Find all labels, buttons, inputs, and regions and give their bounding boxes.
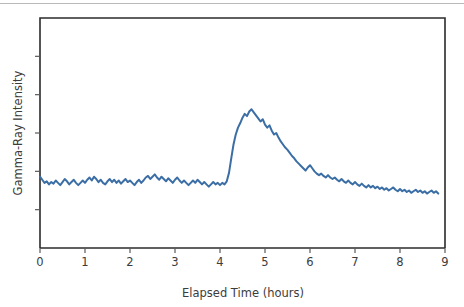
chart-canvas: 0123456789 Elapsed Time (hours) Gamma-Ra… [0,0,464,307]
x-tick-label: 0 [36,255,43,269]
plot-frame [40,18,445,248]
x-tick-label: 9 [441,255,448,269]
x-tick-label: 5 [261,255,268,269]
x-tick-label: 7 [351,255,358,269]
x-axis-ticks [40,248,445,253]
x-tick-label: 2 [126,255,133,269]
x-tick-label: 8 [396,255,403,269]
x-tick-label: 3 [171,255,178,269]
y-axis-title: Gamma-Ray Intensity [11,70,25,195]
x-tick-label: 4 [216,255,223,269]
figure-container: 0123456789 Elapsed Time (hours) Gamma-Ra… [0,0,464,307]
x-tick-label: 1 [81,255,88,269]
x-axis-title: Elapsed Time (hours) [182,286,304,300]
x-tick-label: 6 [306,255,313,269]
x-axis-tick-labels: 0123456789 [36,255,448,269]
data-series-group [40,109,438,193]
data-series-line [40,109,438,193]
